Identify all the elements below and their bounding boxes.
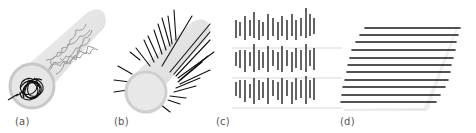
- panel-a: (a): [0, 0, 110, 133]
- panel-label-c: (c): [216, 116, 230, 127]
- panel-c: (c): [212, 0, 342, 133]
- panel-label-d: (d): [340, 116, 355, 127]
- coil-in-cylinder-graphic: [0, 0, 110, 115]
- tilted-chain-stack-graphic: [338, 0, 476, 115]
- panel-d: (d): [338, 0, 476, 133]
- layered-rods-graphic: [212, 0, 342, 115]
- panel-label-a: (a): [15, 116, 30, 127]
- panel-label-b: (b): [114, 116, 129, 127]
